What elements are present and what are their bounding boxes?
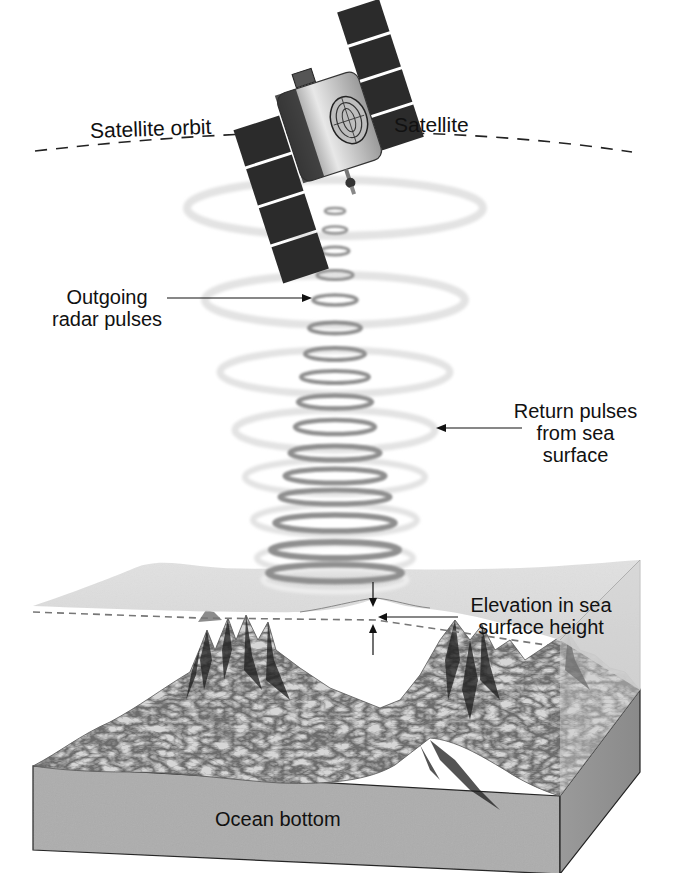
outgoing-pulses-label: Outgoing radar pulses — [52, 286, 162, 330]
elevation-up-arrowhead-icon — [369, 624, 377, 633]
return-pulses-label: Return pulses from sea surface — [503, 400, 648, 466]
satellite-label: Satellite — [394, 114, 469, 136]
ocean-block — [33, 610, 640, 873]
satellite-altimetry-diagram: Satellite Satellite orbit Outgoing radar… — [0, 0, 675, 873]
satellite-orbit-label: Satellite orbit — [90, 116, 212, 142]
outgoing-arrowhead-icon — [302, 294, 312, 302]
seamount-peak — [198, 610, 222, 622]
ocean-bottom-label: Ocean bottom — [215, 808, 341, 830]
elevation-leader-arrowhead-icon — [378, 613, 387, 621]
elevation-down-arrowhead-icon — [369, 598, 377, 607]
satellite — [209, 0, 454, 283]
elevation-label: Elevation in sea surface height — [455, 594, 627, 638]
